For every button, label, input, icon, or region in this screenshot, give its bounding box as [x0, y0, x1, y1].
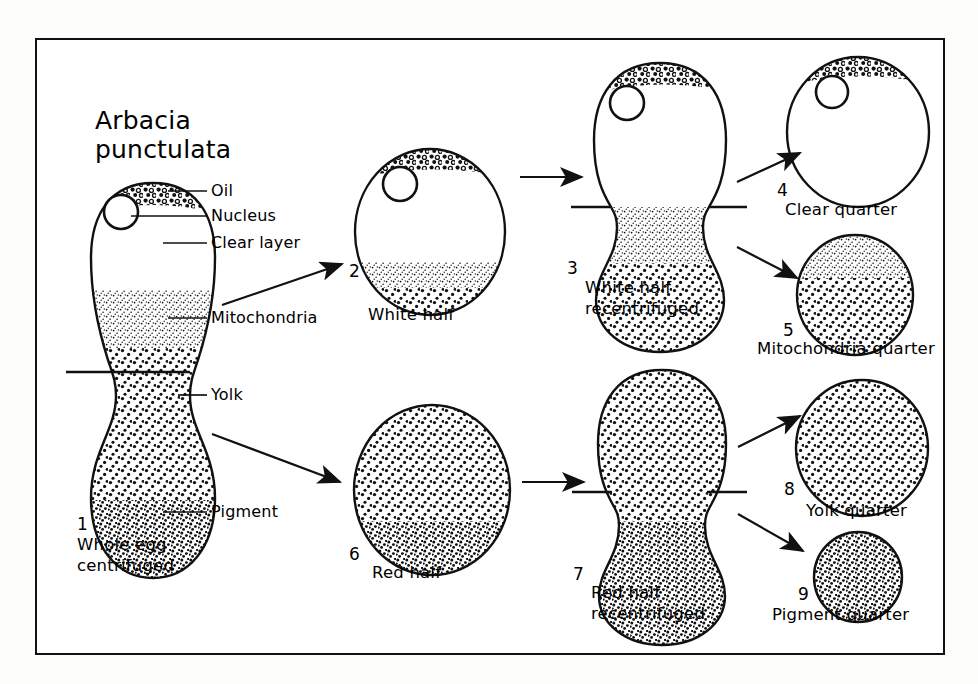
label-mitochondria: Mitochondria [211, 308, 318, 327]
nucleus-stage-3 [610, 86, 644, 120]
stage-caption-6: Red half [372, 563, 441, 582]
label-pigment: Pigment [211, 502, 278, 521]
arrow-1-to-2 [222, 264, 342, 305]
stage-1-egg [88, 180, 222, 582]
stage-caption-5: Mitochondria quarter [757, 339, 935, 358]
stage-number-4: 4 [777, 180, 788, 200]
label-nucleus: Nucleus [211, 206, 276, 225]
stage-caption-3-line1: White half [585, 278, 699, 299]
stage-number-6: 6 [349, 544, 360, 564]
nucleus-stage-1 [104, 195, 138, 229]
stage-caption-7: Red half recentrifuged [591, 583, 705, 624]
arrow-7-to-9 [738, 514, 803, 551]
stage-caption-3-line2: recentrifuged [585, 299, 699, 320]
stage-caption-7-line1: Red half [591, 583, 705, 604]
stage-caption-4: Clear quarter [785, 200, 897, 219]
stage-number-7: 7 [573, 564, 584, 584]
stage-8-egg [794, 378, 932, 520]
stage-2-egg [352, 145, 510, 321]
arrow-3-to-5 [737, 247, 797, 278]
stage-number-3: 3 [567, 258, 578, 278]
stage-caption-8: Yolk quarter [806, 501, 907, 520]
arrow-1-to-6 [212, 434, 340, 482]
label-oil: Oil [211, 181, 233, 200]
stage-caption-2: White half [368, 305, 454, 324]
label-yolk: Yolk [211, 385, 243, 404]
label-clear-layer: Clear layer [211, 233, 300, 252]
nucleus-stage-4 [816, 76, 848, 108]
figure-title-line2: punctulata [95, 135, 231, 164]
stage-caption-1-line2: centrifuged [77, 556, 174, 577]
nucleus-stage-2 [383, 167, 417, 201]
stage-4-egg [784, 54, 934, 212]
stage-number-2: 2 [349, 261, 360, 281]
stage-number-9: 9 [798, 584, 809, 604]
stage-caption-3: White half recentrifuged [585, 278, 699, 319]
stage-caption-1-line1: Whole egg [77, 535, 174, 556]
arrow-3-to-4 [737, 153, 800, 182]
stage-6-egg [352, 403, 512, 581]
figure-title-line1: Arbacia [95, 106, 231, 135]
stage-number-1: 1 [77, 514, 88, 534]
stage-number-5: 5 [783, 320, 794, 340]
stage-caption-7-line2: recentrifuged [591, 604, 705, 625]
figure-title: Arbacia punctulata [95, 106, 231, 164]
figure-canvas: Arbacia punctulata Oil Nucleus Clear lay… [0, 0, 978, 684]
arrow-7-to-8 [738, 416, 800, 447]
stage-caption-9: Pigment quarter [772, 605, 909, 624]
stage-number-8: 8 [784, 479, 795, 499]
stage-caption-1: Whole egg centrifuged [77, 535, 174, 576]
